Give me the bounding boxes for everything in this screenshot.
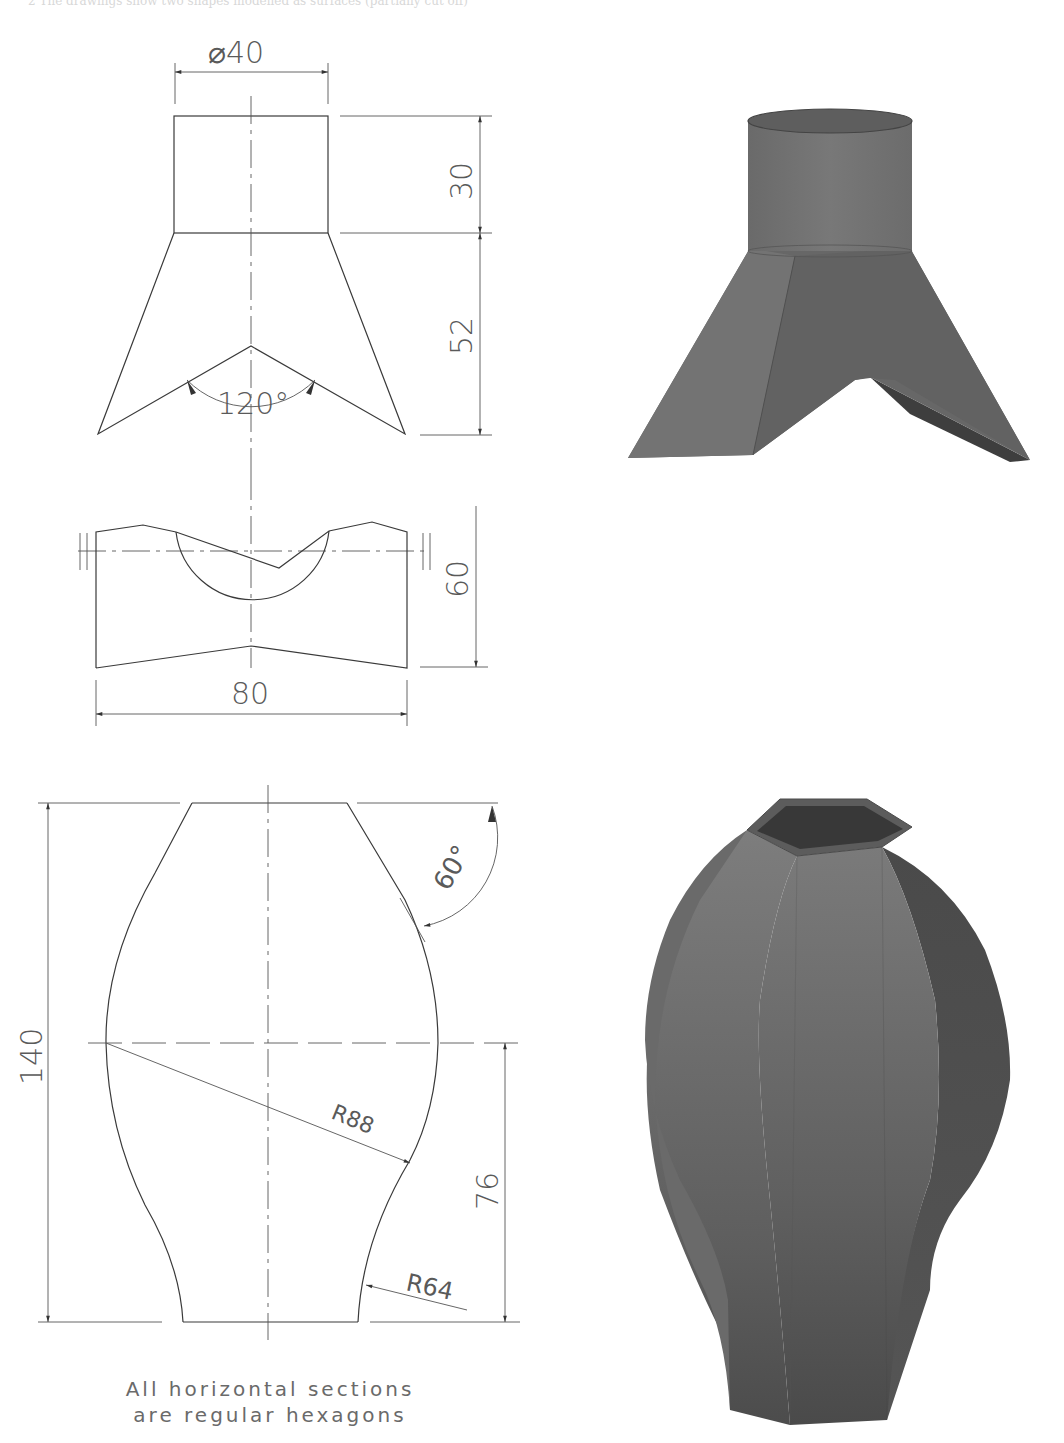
side-view-drawing1: 60 80	[78, 472, 488, 726]
angle-label-60: 60°	[427, 840, 476, 895]
technical-drawing-svg: ⌀40 120° 30 52	[0, 0, 1064, 1443]
height-label-52: 52	[444, 317, 479, 355]
width-label-80: 80	[231, 676, 269, 711]
height-label-76: 76	[470, 1172, 505, 1210]
radius-label-r64: R64	[404, 1268, 456, 1305]
cylinder-with-two-legs-3d-model	[628, 109, 1030, 462]
hexagonal-vase-3d-model	[645, 799, 1010, 1425]
height-label-30: 30	[444, 162, 479, 200]
note-line-1: All horizontal sections	[80, 1376, 460, 1402]
drawing-sheet: 2 The drawings show two shapes modelled …	[0, 0, 1064, 1443]
profile-view-drawing2: R88 R64 140 76 60°	[14, 785, 520, 1340]
hexagon-note: All horizontal sections are regular hexa…	[80, 1376, 460, 1428]
note-line-2: are regular hexagons	[80, 1402, 460, 1428]
height-label-60: 60	[440, 560, 475, 598]
front-view-drawing1: ⌀40 120° 30 52	[98, 35, 492, 472]
angle-label-120: 120°	[217, 386, 289, 421]
diameter-label: ⌀40	[208, 35, 264, 70]
height-label-140: 140	[14, 1028, 49, 1085]
radius-label-r88: R88	[328, 1099, 377, 1138]
